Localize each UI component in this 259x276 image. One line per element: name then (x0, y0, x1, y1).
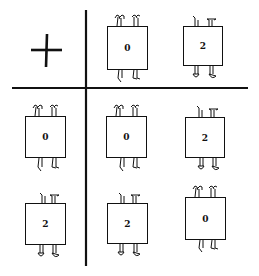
figure-body: 0 (107, 26, 148, 70)
row-header-2: 2 (25, 191, 66, 261)
addition-table-diagram: 0 2 0 2 (0, 0, 259, 276)
cell-2-plus-0: 2 (107, 191, 148, 261)
figure-body: 0 (106, 116, 147, 158)
row-header-0: 0 (25, 104, 66, 174)
cell-0-plus-0: 0 (106, 104, 147, 174)
cell-0-plus-2: 2 (185, 104, 225, 174)
column-header-2: 2 (183, 14, 223, 82)
figure-body: 2 (183, 26, 223, 66)
figure-body: 0 (25, 116, 66, 158)
figure-body: 2 (185, 117, 225, 158)
figure-body: 2 (107, 203, 148, 244)
figure-body: 0 (185, 197, 226, 240)
cell-2-plus-2: 0 (185, 185, 226, 255)
figure-body: 2 (25, 203, 66, 245)
plus-operator-icon (31, 34, 62, 67)
column-header-0: 0 (107, 14, 148, 84)
